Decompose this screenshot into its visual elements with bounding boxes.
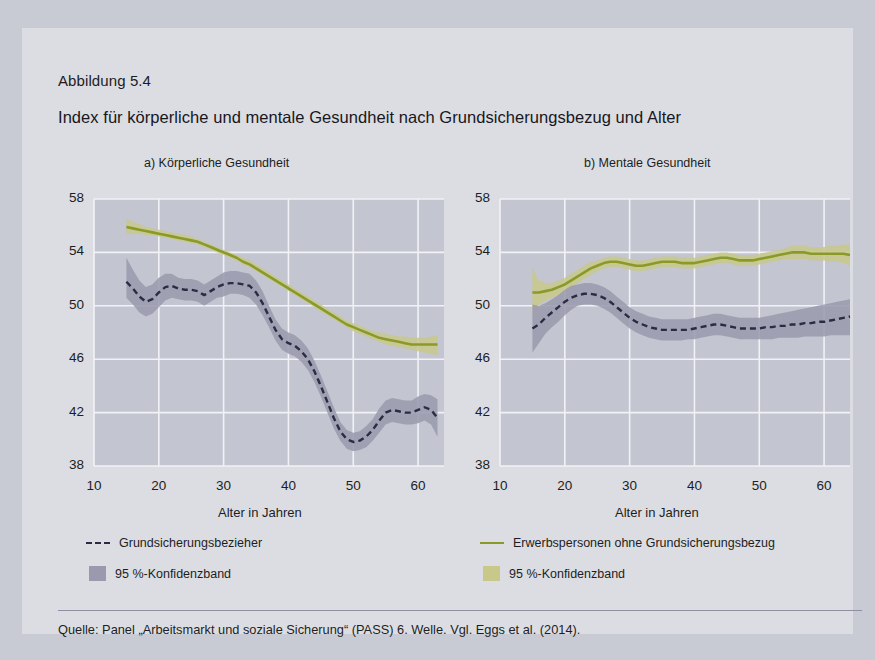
figure-card: Abbildung 5.4 Index für körperliche und … — [22, 28, 853, 634]
xaxis-label-panel-a: Alter in Jahren — [218, 505, 302, 520]
legend-label: Erwerbspersonen ohne Grundsicherungsbezu… — [513, 536, 775, 550]
ytick-label-b-46: 46 — [464, 350, 490, 365]
purple-band-swatch-icon — [89, 566, 106, 581]
legend-label: 95 %-Konfidenzband — [115, 567, 231, 581]
legend-item-grundsicherungsbezieher: Grundsicherungsbezieher — [86, 536, 262, 550]
legend-item-konfidenzband-purple: 95 %-Konfidenzband — [86, 566, 231, 581]
source-note: Quelle: Panel „Arbeitsmarkt und soziale … — [58, 622, 580, 637]
ytick-label-b-58: 58 — [464, 190, 490, 205]
xtick-label-a-60: 60 — [403, 478, 433, 493]
source-divider — [58, 610, 862, 611]
ytick-label-b-50: 50 — [464, 297, 490, 312]
ytick-label-a-46: 46 — [58, 350, 84, 365]
xtick-label-b-30: 30 — [615, 478, 645, 493]
olive-band-swatch-icon — [483, 566, 500, 581]
solid-line-icon — [480, 542, 504, 544]
ytick-label-a-38: 38 — [58, 457, 84, 472]
ytick-label-a-50: 50 — [58, 297, 84, 312]
ytick-label-b-42: 42 — [464, 404, 490, 419]
xtick-label-a-50: 50 — [338, 478, 368, 493]
xtick-label-b-60: 60 — [809, 478, 839, 493]
xtick-label-b-10: 10 — [485, 478, 515, 493]
ytick-label-b-38: 38 — [464, 457, 490, 472]
xtick-label-a-10: 10 — [79, 478, 109, 493]
legend-item-erwerbspersonen: Erwerbspersonen ohne Grundsicherungsbezu… — [480, 536, 775, 550]
xtick-label-a-30: 30 — [209, 478, 239, 493]
ytick-label-a-54: 54 — [58, 243, 84, 258]
legend-item-konfidenzband-olive: 95 %-Konfidenzband — [480, 566, 625, 581]
ytick-label-a-58: 58 — [58, 190, 84, 205]
legend-label: 95 %-Konfidenzband — [509, 567, 625, 581]
ytick-label-a-42: 42 — [58, 404, 84, 419]
figure-page: Abbildung 5.4 Index für körperliche und … — [0, 0, 875, 660]
xtick-label-b-50: 50 — [744, 478, 774, 493]
ytick-label-b-54: 54 — [464, 243, 490, 258]
xtick-label-b-20: 20 — [550, 478, 580, 493]
dashed-line-icon — [86, 542, 110, 544]
legend-label: Grundsicherungsbezieher — [119, 536, 262, 550]
xtick-label-a-40: 40 — [273, 478, 303, 493]
xtick-label-a-20: 20 — [144, 478, 174, 493]
xaxis-label-panel-b: Alter in Jahren — [615, 505, 699, 520]
xtick-label-b-40: 40 — [679, 478, 709, 493]
